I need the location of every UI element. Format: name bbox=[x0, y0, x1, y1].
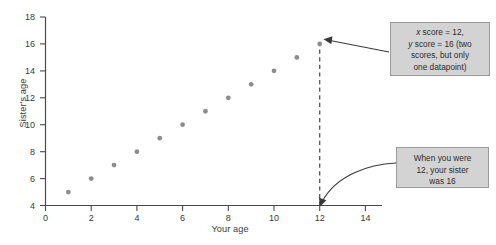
data-point bbox=[180, 122, 185, 127]
data-point bbox=[294, 55, 299, 60]
data-points bbox=[66, 42, 322, 195]
x-tick-label-12: 12 bbox=[310, 213, 330, 223]
x-tick-label-14: 14 bbox=[355, 213, 375, 223]
annotation-line-4: one datapoint) bbox=[396, 62, 484, 74]
x-tick-label-4: 4 bbox=[127, 213, 147, 223]
y-tick-label-18: 18 bbox=[15, 12, 35, 22]
annotation-line-2: y score = 16 (two bbox=[396, 39, 484, 51]
data-point bbox=[157, 136, 162, 141]
explanation-line-3: was 16 bbox=[402, 176, 483, 188]
data-point bbox=[249, 82, 254, 87]
x-tick-label-0: 0 bbox=[36, 213, 56, 223]
data-point bbox=[203, 109, 208, 114]
annotation-arrow-1 bbox=[324, 36, 390, 52]
y-axis-title: Sister's age bbox=[18, 58, 28, 148]
annotation-line-1: x score = 12, bbox=[396, 27, 484, 39]
x-tick-label-2: 2 bbox=[81, 213, 101, 223]
annotation-line-2-rest: score = 16 (two bbox=[412, 39, 471, 49]
x-axis-ticks bbox=[46, 206, 366, 212]
x-axis-title: Your age bbox=[180, 224, 280, 234]
data-point bbox=[89, 176, 94, 181]
annotation-arrow-2 bbox=[319, 163, 396, 207]
x-tick-label-8: 8 bbox=[218, 213, 238, 223]
axis-lines bbox=[46, 17, 383, 206]
annotation-box-scores: x score = 12, y score = 16 (two scores, … bbox=[390, 22, 490, 76]
y-axis-ticks bbox=[40, 17, 46, 206]
data-point bbox=[66, 190, 71, 195]
y-tick-label-16: 16 bbox=[15, 39, 35, 49]
y-tick-label-6: 6 bbox=[15, 174, 35, 184]
annotation-box-explanation: When you were 12, your sister was 16 bbox=[396, 147, 489, 188]
y-tick-label-4: 4 bbox=[15, 201, 35, 211]
data-point bbox=[317, 42, 322, 47]
explanation-line-1: When you were bbox=[402, 153, 483, 165]
explanation-line-2: 12, your sister bbox=[402, 165, 483, 177]
data-point bbox=[226, 95, 231, 100]
annotation-line-3: scores, but only bbox=[396, 50, 484, 62]
x-tick-label-10: 10 bbox=[264, 213, 284, 223]
data-point bbox=[112, 163, 117, 168]
x-tick-label-6: 6 bbox=[173, 213, 193, 223]
annotation-line-1-rest: score = 12, bbox=[420, 27, 464, 37]
y-tick-label-8: 8 bbox=[15, 147, 35, 157]
data-point bbox=[135, 149, 140, 154]
data-point bbox=[272, 68, 277, 73]
